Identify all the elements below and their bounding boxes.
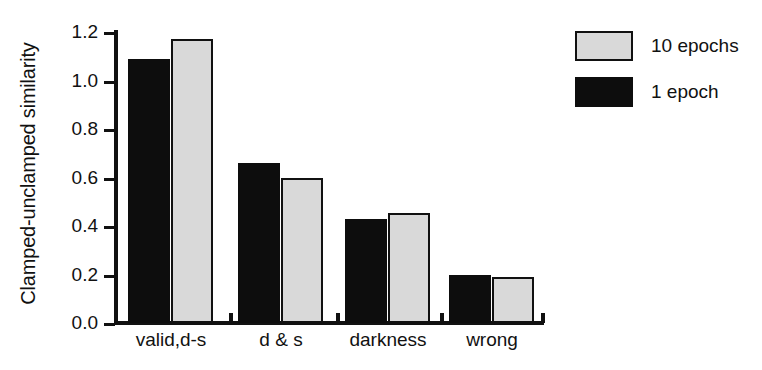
x-axis-label-wrong: wrong bbox=[432, 329, 552, 351]
y-tick-label: 0.2 bbox=[38, 264, 98, 286]
y-tick-mark bbox=[104, 32, 115, 35]
x-axis-label-d-s: d & s bbox=[221, 329, 341, 351]
x-axis-label-darkness: darkness bbox=[328, 329, 448, 351]
y-tick-label: 1.0 bbox=[38, 70, 98, 92]
legend-item: 10 epochs bbox=[575, 30, 755, 62]
bar-1-epoch-valid-d-s bbox=[128, 59, 170, 323]
y-tick-label: 0.8 bbox=[38, 118, 98, 140]
y-tick-mark bbox=[104, 81, 115, 84]
legend-label: 1 epoch bbox=[651, 81, 719, 103]
chart-legend: 10 epochs1 epoch bbox=[575, 30, 755, 122]
plot-area bbox=[118, 32, 543, 323]
y-tick-label: 1.2 bbox=[38, 21, 98, 43]
y-tick-mark bbox=[104, 226, 115, 229]
y-tick-label: 0.4 bbox=[38, 215, 98, 237]
legend-label: 10 epochs bbox=[651, 35, 739, 57]
y-tick-mark bbox=[104, 178, 115, 181]
bar-1-epoch-wrong bbox=[449, 275, 491, 324]
y-tick-label: 0.6 bbox=[38, 167, 98, 189]
legend-swatch-1-epoch bbox=[575, 77, 633, 107]
y-tick-mark bbox=[104, 129, 115, 132]
bar-10-epochs-d-s bbox=[281, 178, 323, 324]
bar-1-epoch-d-s bbox=[238, 163, 280, 323]
y-tick-label: 0.0 bbox=[38, 312, 98, 334]
legend-item: 1 epoch bbox=[575, 76, 755, 108]
x-axis-label-valid-d-s: valid,d-s bbox=[111, 329, 231, 351]
bar-10-epochs-valid-d-s bbox=[171, 39, 213, 323]
y-tick-mark bbox=[104, 323, 115, 326]
y-axis-title: Clamped-unclamped similarity bbox=[17, 24, 40, 324]
bar-10-epochs-wrong bbox=[492, 277, 534, 323]
legend-swatch-10-epochs bbox=[575, 31, 633, 61]
bar-chart-figure: Clamped-unclamped similarity 1.21.00.80.… bbox=[0, 0, 762, 370]
y-tick-mark bbox=[104, 275, 115, 278]
bar-10-epochs-darkness bbox=[388, 213, 430, 323]
bar-1-epoch-darkness bbox=[345, 219, 387, 323]
